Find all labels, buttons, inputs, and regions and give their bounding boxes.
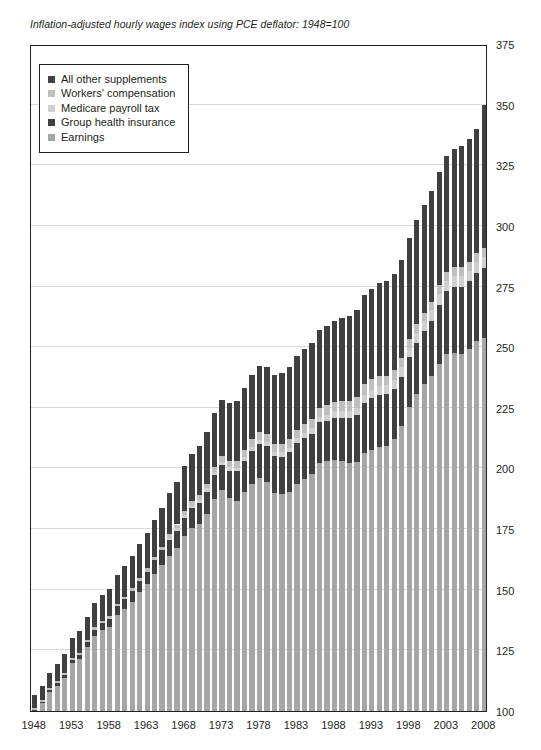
- bar-segment: [85, 642, 90, 647]
- bar-segment: [474, 129, 479, 253]
- bar: [392, 274, 397, 711]
- bar: [47, 673, 52, 711]
- bar-segment: [354, 397, 359, 408]
- x-tick-label: 1958: [96, 719, 120, 731]
- bar-segment: [444, 272, 449, 281]
- x-tick-label: 1948: [21, 719, 45, 731]
- bar-segment: [347, 401, 352, 411]
- bar-segment: [234, 461, 239, 467]
- bar-segment: [219, 400, 224, 456]
- bar-segment: [392, 380, 397, 389]
- bar-segment: [92, 636, 97, 711]
- bar-segment: [429, 376, 434, 711]
- bar-segment: [197, 495, 202, 500]
- bar: [444, 156, 449, 711]
- bar-segment: [167, 534, 172, 538]
- bar-segment: [85, 640, 90, 642]
- bar: [40, 686, 45, 711]
- bar-segment: [197, 524, 202, 711]
- bar-segment: [272, 444, 277, 452]
- bar-segment: [234, 471, 239, 500]
- bar-segment: [174, 531, 179, 548]
- bar-segment: [399, 358, 404, 367]
- bar: [70, 638, 75, 711]
- bar-segment: [429, 321, 434, 377]
- x-tick-label: 1983: [284, 719, 308, 731]
- bar-segment: [137, 592, 142, 711]
- bar-segment: [429, 310, 434, 320]
- bar-segment: [189, 454, 194, 501]
- bar-segment: [294, 484, 299, 711]
- x-tick-label: 1998: [396, 719, 420, 731]
- bar-segment: [182, 536, 187, 711]
- bar: [384, 281, 389, 711]
- bar-segment: [167, 493, 172, 534]
- bar-segment: [107, 627, 112, 711]
- bar: [242, 388, 247, 711]
- y-tick-label: 275: [496, 282, 514, 294]
- bar-segment: [414, 220, 419, 324]
- bar-segment: [212, 472, 217, 475]
- bar: [152, 520, 157, 711]
- bar-segment: [332, 411, 337, 418]
- bar-segment: [130, 591, 135, 602]
- bar-segment: [100, 623, 105, 630]
- bar-segment: [272, 375, 277, 444]
- bar-segment: [444, 156, 449, 272]
- bar: [257, 366, 262, 711]
- bar-segment: [354, 415, 359, 462]
- bar-segment: [77, 655, 82, 659]
- bar: [474, 129, 479, 711]
- bar: [332, 321, 337, 711]
- bar-segment: [47, 692, 52, 711]
- y-tick-label: 175: [496, 524, 514, 536]
- y-tick-label: 250: [496, 342, 514, 354]
- bar-segment: [444, 291, 449, 355]
- bar: [182, 466, 187, 711]
- bar-segment: [287, 367, 292, 439]
- bar-segment: [429, 302, 434, 311]
- bar-segment: [347, 463, 352, 711]
- bar-segment: [459, 146, 464, 267]
- x-tick-label: 1988: [321, 719, 345, 731]
- bar-segment: [189, 506, 194, 509]
- bar-segment: [437, 172, 442, 285]
- bar-segment: [414, 333, 419, 343]
- bar-segment: [145, 572, 150, 585]
- bar: [32, 695, 37, 711]
- bar-segment: [459, 276, 464, 286]
- bar-segment: [264, 446, 269, 481]
- x-tick-label: 2008: [471, 719, 495, 731]
- bar: [122, 566, 127, 711]
- bar-segment: [122, 566, 127, 597]
- bar: [249, 375, 254, 711]
- legend-item: All other supplements: [48, 72, 175, 87]
- bar: [414, 220, 419, 711]
- bar-segment: [55, 683, 60, 685]
- bar-segment: [212, 475, 217, 499]
- bar-segment: [174, 548, 179, 711]
- bar-segment: [77, 659, 82, 711]
- bar: [174, 482, 179, 711]
- bar-segment: [392, 370, 397, 379]
- bar-segment: [377, 386, 382, 395]
- bar-segment: [317, 417, 322, 423]
- bar-segment: [294, 356, 299, 430]
- bar-segment: [249, 375, 254, 439]
- bar-segment: [100, 621, 105, 623]
- bar: [467, 139, 472, 711]
- bar: [452, 149, 457, 711]
- bar-segment: [384, 281, 389, 375]
- y-tick-label: 325: [496, 160, 514, 172]
- bar-segment: [167, 540, 172, 556]
- bar: [422, 205, 427, 711]
- bar-segment: [85, 647, 90, 711]
- bar-segment: [92, 630, 97, 636]
- bar: [399, 260, 404, 711]
- bar-segment: [62, 654, 67, 672]
- bar-segment: [309, 434, 314, 475]
- chart-legend: All other supplementsWorkers' compensati…: [39, 64, 189, 153]
- bar-segment: [384, 446, 389, 711]
- bar-segment: [152, 560, 157, 574]
- bar-segment: [422, 321, 427, 331]
